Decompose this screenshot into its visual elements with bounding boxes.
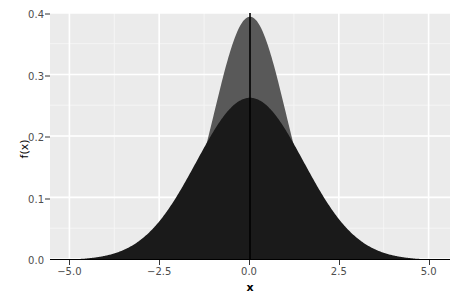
x-tick-label-2: 0.0 <box>219 266 279 277</box>
x-tick-mark-2 <box>249 260 250 265</box>
x-tick-mark-4 <box>429 260 430 265</box>
y-tick-label-4: 0.4 <box>4 9 44 20</box>
x-tick-label-3: 2.5 <box>309 266 369 277</box>
y-tick-label-2: 0.2 <box>4 132 44 143</box>
y-tick-label-0: 0.0 <box>4 255 44 266</box>
y-tick-label-3: 0.3 <box>4 70 44 81</box>
x-tick-mark-3 <box>339 260 340 265</box>
x-tick-label-0: −5.0 <box>39 266 99 277</box>
density-plot-chart: f(x) 0.0 0.1 0.2 0.3 0.4 <box>0 0 466 298</box>
x-tick-mark-0 <box>69 260 70 265</box>
y-axis-tick-labels: 0.0 0.1 0.2 0.3 0.4 <box>0 0 44 298</box>
x-tick-label-4: 5.0 <box>399 266 459 277</box>
x-axis-title: x <box>50 281 450 294</box>
plot-panel <box>50 13 450 260</box>
x-tick-label-1: −2.5 <box>129 266 189 277</box>
x-tick-mark-1 <box>159 260 160 265</box>
plot-area-svg <box>50 13 450 260</box>
y-tick-label-1: 0.1 <box>4 193 44 204</box>
